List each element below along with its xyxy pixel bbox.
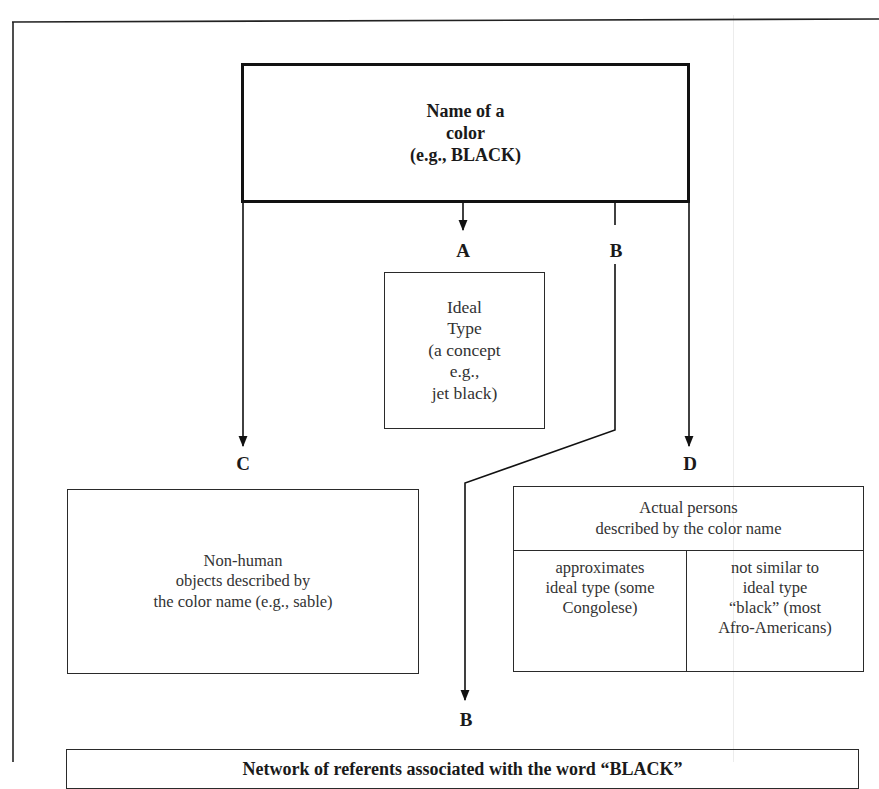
d-header-line: described by the color name	[595, 519, 781, 540]
label-b-bottom: B	[460, 710, 473, 730]
d-cell-line: Afro-Americans)	[718, 618, 832, 638]
actual-persons-header: Actual persons described by the color na…	[514, 487, 863, 551]
root-text-line: color	[446, 122, 485, 144]
label-b-top: B	[610, 241, 623, 261]
d-cell-line: approximates	[556, 558, 645, 578]
d-cell-line: Congolese)	[562, 598, 637, 618]
c-text-line: objects described by	[176, 571, 311, 592]
approximates-ideal-cell: approximates ideal type (some Congolese)	[514, 551, 687, 671]
root-text-line: Name of a	[427, 100, 505, 122]
ideal-type-box: Ideal Type (a concept e.g., jet black)	[384, 272, 545, 429]
ideal-text-line: (a concept	[428, 340, 500, 362]
not-similar-cell: not similar to ideal type “black” (most …	[687, 551, 863, 671]
c-text-line: Non-human	[204, 551, 283, 572]
ideal-text-line: Type	[447, 318, 482, 340]
d-header-line: Actual persons	[639, 498, 738, 519]
bottom-box-text: Network of referents associated with the…	[243, 759, 683, 779]
label-c: C	[236, 454, 250, 474]
actual-persons-box: Actual persons described by the color na…	[513, 486, 864, 672]
outer-frame-top	[12, 19, 879, 22]
d-cell-line: ideal type	[743, 578, 808, 598]
ideal-text-line: jet black)	[432, 383, 498, 405]
ideal-text-line: Ideal	[447, 297, 482, 319]
d-cell-line: not similar to	[731, 558, 819, 578]
root-text-line: (e.g., BLACK)	[410, 144, 521, 166]
label-d: D	[683, 454, 697, 474]
referents-network-box: Network of referents associated with the…	[66, 749, 859, 789]
ideal-text-line: e.g.,	[450, 361, 480, 383]
non-human-objects-box: Non-human objects described by the color…	[67, 489, 419, 674]
label-a: A	[456, 241, 470, 261]
c-text-line: the color name (e.g., sable)	[153, 592, 332, 613]
root-color-name-box: Name of a color (e.g., BLACK)	[241, 63, 690, 203]
d-cell-line: ideal type (some	[545, 578, 654, 598]
d-cell-line: “black” (most	[729, 598, 821, 618]
